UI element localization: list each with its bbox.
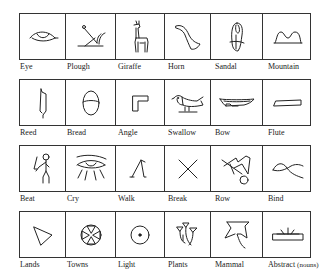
- label-abstract-suffix: (nouns): [297, 261, 318, 269]
- mammal-icon: [223, 220, 251, 250]
- towns-icon: [79, 223, 103, 247]
- cell-walk: [116, 146, 165, 191]
- walk-icon: [128, 157, 152, 181]
- cell-bread: [66, 80, 116, 125]
- label-mountain: Mountain: [267, 61, 317, 73]
- label-giraffe: Giraffe: [117, 61, 167, 73]
- horn-icon: [174, 23, 202, 51]
- angle-icon: [130, 93, 150, 113]
- cell-angle: [116, 80, 165, 125]
- label-row: Row: [214, 193, 267, 205]
- cell-beat: [20, 146, 66, 191]
- break-icon: [176, 157, 200, 181]
- cell-eye: [20, 14, 66, 59]
- cell-abstract: [263, 212, 312, 257]
- cell-break: [165, 146, 211, 191]
- label-abstract-main: Abstract: [268, 260, 295, 269]
- cell-towns: [66, 212, 116, 257]
- label-plants: Plants: [167, 259, 214, 271]
- mountain-icon: [273, 29, 303, 45]
- label-walk: Walk: [117, 193, 167, 205]
- giraffe-icon: [130, 20, 150, 54]
- cell-reed: [20, 80, 66, 125]
- eye-icon: [28, 29, 58, 45]
- cry-icon: [74, 154, 108, 184]
- label-reed: Reed: [19, 127, 66, 139]
- label-abstract: Abstract (nouns): [267, 259, 317, 271]
- cell-mountain: [263, 14, 312, 59]
- label-beat: Beat: [19, 193, 66, 205]
- grid-row-4: Lands Towns Light Plants Mammal Abstract…: [19, 211, 311, 277]
- label-plough: Plough: [66, 61, 117, 73]
- plough-icon: [75, 24, 107, 50]
- grid-row-3: Beat Cry Walk Break Row Bind: [19, 145, 311, 211]
- cell-plants: [165, 212, 211, 257]
- cell-giraffe: [116, 14, 165, 59]
- lands-icon: [31, 223, 55, 247]
- bow-icon: [218, 96, 256, 110]
- hieroglyph-grid: Eye Plough Giraffe Horn Sandal Mountain: [19, 13, 311, 277]
- cell-mammal: [211, 212, 263, 257]
- reed-icon: [37, 87, 49, 119]
- label-bind: Bind: [267, 193, 317, 205]
- beat-icon: [31, 153, 55, 185]
- label-flute: Flute: [267, 127, 317, 139]
- cell-cry: [66, 146, 116, 191]
- label-bread: Bread: [66, 127, 117, 139]
- cell-flute: [263, 80, 312, 125]
- label-cry: Cry: [66, 193, 117, 205]
- label-mammal: Mammal: [214, 259, 267, 271]
- label-break: Break: [167, 193, 214, 205]
- cell-bow: [211, 80, 263, 125]
- cell-horn: [165, 14, 211, 59]
- sandal-icon: [228, 21, 246, 53]
- label-bow: Bow: [214, 127, 267, 139]
- label-sandal: Sandal: [214, 61, 267, 73]
- cell-plough: [66, 14, 116, 59]
- light-icon: [129, 224, 151, 246]
- label-light: Light: [117, 259, 167, 271]
- label-lands: Lands: [19, 259, 66, 271]
- cell-lands: [20, 212, 66, 257]
- grid-row-2: Reed Bread Angle Swallow Bow Flute: [19, 79, 311, 145]
- cell-bind: [263, 146, 312, 191]
- swallow-icon: [171, 91, 205, 115]
- row-icon: [220, 152, 254, 186]
- abstract-icon: [271, 226, 305, 244]
- flute-icon: [273, 98, 303, 108]
- label-angle: Angle: [117, 127, 167, 139]
- cell-swallow: [165, 80, 211, 125]
- label-eye: Eye: [19, 61, 66, 73]
- cell-sandal: [211, 14, 263, 59]
- cell-light: [116, 212, 165, 257]
- bind-icon: [271, 158, 305, 180]
- label-towns: Towns: [66, 259, 117, 271]
- cell-row: [211, 146, 263, 191]
- plants-icon: [175, 221, 201, 249]
- bread-icon: [81, 89, 101, 117]
- label-horn: Horn: [167, 61, 214, 73]
- label-swallow: Swallow: [167, 127, 214, 139]
- grid-row-1: Eye Plough Giraffe Horn Sandal Mountain: [19, 13, 311, 79]
